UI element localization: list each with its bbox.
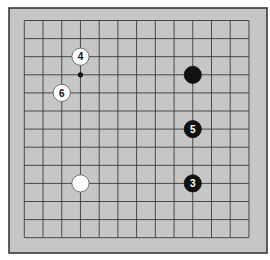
black-stone-3[interactable]: 3 [184, 175, 201, 192]
board-background [9, 8, 267, 253]
move-number-label: 6 [59, 88, 65, 99]
point-marker-dot [78, 72, 83, 77]
move-number-label: 4 [78, 51, 84, 62]
black-stone[interactable] [184, 66, 201, 83]
stone-circle [72, 175, 89, 192]
white-stone[interactable] [72, 175, 89, 192]
move-number-label: 5 [190, 124, 196, 135]
black-stone-5[interactable]: 5 [184, 121, 201, 138]
go-board[interactable]: 4653 [0, 0, 270, 260]
white-stone-4[interactable]: 4 [72, 48, 89, 65]
move-number-label: 3 [190, 178, 196, 189]
white-stone-6[interactable]: 6 [53, 84, 70, 101]
board-markers [78, 72, 83, 77]
stone-circle [184, 66, 201, 83]
